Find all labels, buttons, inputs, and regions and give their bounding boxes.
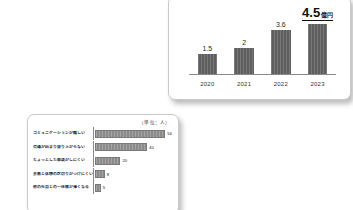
revenue-bar-group-2: 3.6 [265, 3, 297, 74]
revenue-bar-1 [234, 48, 253, 74]
revenue-x-tick-3: 2023 [301, 81, 333, 87]
revenue-highlight-label: 4.5億円 [302, 6, 333, 21]
survey-row-2: ちょっとした雑談がしにくい 20 [33, 154, 173, 167]
survey-row-0: コミュニケーションが難しい 54 [33, 127, 173, 140]
survey-category-label-0: コミュニケーションが難しい [33, 131, 93, 135]
survey-value-label-3: 8 [107, 172, 109, 177]
revenue-bar-0 [198, 54, 217, 74]
revenue-value-label-2: 3.6 [276, 21, 286, 28]
revenue-bar-group-3: 4.5億円 [301, 3, 333, 74]
revenue-plot-area: 1.5 2 3.6 4.5億円 [189, 3, 336, 75]
survey-category-label-3: 業務と休憩の区切りがつけにくい [33, 172, 93, 176]
survey-value-label-2: 20 [122, 158, 127, 163]
survey-value-label-0: 54 [167, 131, 172, 136]
survey-bar-2 [95, 157, 121, 165]
survey-track-3: 8 [93, 168, 173, 181]
survey-category-label-1: 会議が始まり盛り上がらない [33, 145, 93, 149]
survey-value-label-1: 40 [149, 145, 154, 150]
revenue-bar-chart: 1.5 2 3.6 4.5億円 2020 2021 [181, 3, 340, 93]
survey-bar-1 [95, 143, 148, 151]
revenue-bar-3 [308, 24, 327, 74]
survey-bar-0 [95, 130, 166, 138]
survey-track-4: 5 [93, 181, 173, 194]
survey-bar-3 [95, 170, 105, 178]
remote-work-issues-card: （単位：人） コミュニケーションが難しい 54 会議が始まり盛り上がらない 40… [27, 114, 179, 210]
survey-track-1: 40 [93, 141, 173, 154]
survey-bar-chart: （単位：人） コミュニケーションが難しい 54 会議が始まり盛り上がらない 40… [33, 119, 173, 210]
revenue-x-tick-1: 2021 [228, 81, 260, 87]
revenue-value-label-0: 1.5 [203, 45, 213, 52]
revenue-highlight-value: 4.5 [302, 5, 320, 20]
revenue-bar-2 [271, 30, 290, 74]
survey-unit-note: （単位：人） [33, 119, 173, 125]
survey-row-1: 会議が始まり盛り上がらない 40 [33, 141, 173, 154]
revenue-x-tick-2: 2022 [265, 81, 297, 87]
survey-row-3: 業務と休憩の区切りがつけにくい 8 [33, 168, 173, 181]
revenue-growth-card: 1.5 2 3.6 4.5億円 2020 2021 [168, 0, 351, 100]
survey-track-0: 54 [93, 127, 173, 140]
revenue-x-tick-0: 2020 [191, 81, 223, 87]
survey-bar-4 [95, 184, 101, 192]
revenue-x-axis: 2020 2021 2022 2023 [189, 77, 336, 91]
revenue-bar-group-0: 1.5 [191, 3, 223, 74]
survey-track-2: 20 [93, 154, 173, 167]
slide-canvas: 1.5 2 3.6 4.5億円 2020 2021 [0, 0, 353, 210]
revenue-value-label-1: 2 [242, 39, 246, 46]
revenue-highlight-unit: 億円 [321, 12, 333, 18]
survey-row-4: 他の社員との一体感が薄くなる 5 [33, 181, 173, 194]
survey-value-label-4: 5 [103, 185, 105, 190]
revenue-bar-group-1: 2 [228, 3, 260, 74]
survey-category-label-4: 他の社員との一体感が薄くなる [33, 185, 93, 189]
survey-category-label-2: ちょっとした雑談がしにくい [33, 158, 93, 162]
